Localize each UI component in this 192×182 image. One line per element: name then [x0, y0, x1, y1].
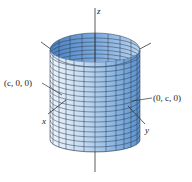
x-intercept-label: (c, 0, 0) [4, 78, 32, 88]
cylinder-diagram: z x y (c, 0, 0) (0, c, 0) [0, 0, 192, 182]
z-axis-label: z [96, 6, 101, 16]
y-intercept-label: (0, c, 0) [153, 93, 181, 103]
y-axis-label: y [144, 125, 149, 135]
x-axis-label: x [41, 116, 46, 126]
